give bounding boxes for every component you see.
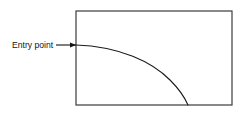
entry-point-diagram: Entry point [0, 0, 241, 115]
entry-point-label: Entry point [12, 40, 54, 50]
entry-curve [76, 45, 188, 105]
boundary-rectangle [76, 11, 232, 105]
diagram-canvas: Entry point [0, 0, 241, 115]
